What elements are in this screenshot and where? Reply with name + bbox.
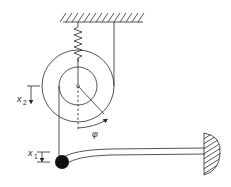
hatch-line [132, 13, 138, 22]
mass [55, 155, 69, 169]
cantilever-beam [63, 148, 205, 164]
x2-subscript: 2 [23, 99, 27, 106]
hatch-line [90, 13, 96, 22]
hatch-line [108, 13, 114, 22]
hatch-line [202, 111, 224, 125]
hatch-line [78, 13, 84, 22]
mechanical-diagram: φ x 2 x 1 [0, 0, 231, 187]
x2-label: x [16, 94, 22, 104]
hatch-line [126, 13, 132, 22]
spring [74, 22, 82, 62]
hatch-line [138, 13, 144, 22]
hatch-line [96, 13, 102, 22]
rotation-radius [78, 86, 104, 114]
ceiling-support [60, 13, 144, 22]
hatch-line [84, 13, 90, 22]
phi-label: φ [92, 129, 98, 139]
hatch-line [102, 13, 108, 22]
hatch-line [66, 13, 72, 22]
phi-arc-arrow [78, 120, 106, 128]
hatch-line [60, 13, 66, 22]
x2-indicator: x 2 [16, 86, 40, 106]
hatch-line [72, 13, 78, 22]
hatch-line [114, 13, 120, 22]
wall-support [202, 111, 224, 185]
x1-indicator: x 1 [27, 148, 50, 162]
x1-label: x [27, 148, 33, 158]
x1-subscript: 1 [34, 153, 38, 160]
hatch-line [202, 116, 224, 130]
hatch-line [120, 13, 126, 22]
